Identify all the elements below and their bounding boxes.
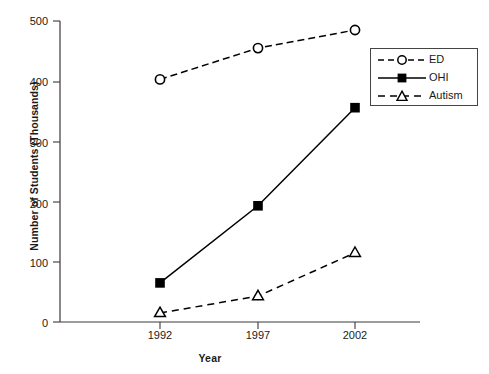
data-point-ed-1997 (253, 44, 262, 53)
series-line-ed (160, 30, 355, 79)
data-point-ohi-1997 (253, 201, 263, 211)
legend-sample-ohi (377, 69, 427, 87)
legend-item-ohi: OHI (377, 69, 475, 87)
data-point-autism-1997 (253, 290, 264, 299)
legend-label-ed: ED (429, 53, 444, 66)
legend-sample-ed (377, 51, 427, 69)
data-point-ohi-2002 (350, 103, 360, 113)
legend-item-ed: ED (377, 51, 475, 69)
data-point-ohi-1992 (155, 278, 165, 288)
legend-label-ohi: OHI (429, 71, 449, 84)
series-line-ohi (160, 108, 355, 283)
legend: ED OHI Autism (370, 48, 478, 106)
data-point-ed-2002 (350, 25, 359, 34)
legend-item-autism: Autism (377, 87, 475, 105)
open-circle-icon (398, 56, 406, 64)
legend-sample-autism (377, 87, 427, 105)
legend-label-autism: Autism (429, 89, 463, 102)
filled-square-icon (398, 74, 407, 83)
data-point-autism-2002 (350, 247, 361, 256)
data-point-ed-1992 (155, 75, 164, 84)
series-line-autism (160, 253, 355, 313)
line-chart: Number of Students (Thousands) 500 400 3… (0, 0, 489, 374)
